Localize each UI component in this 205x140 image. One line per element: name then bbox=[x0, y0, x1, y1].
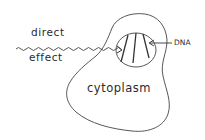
dna-label: DNA bbox=[174, 39, 191, 47]
cell-diagram bbox=[0, 0, 205, 140]
effect-label: effect bbox=[29, 52, 63, 63]
dna-strands-icon bbox=[121, 33, 149, 63]
cytoplasm-label: cytoplasm bbox=[87, 83, 151, 95]
direct-label: direct bbox=[31, 27, 65, 38]
wave-arrowhead-icon bbox=[117, 46, 122, 53]
cell-membrane-outline bbox=[67, 14, 170, 132]
